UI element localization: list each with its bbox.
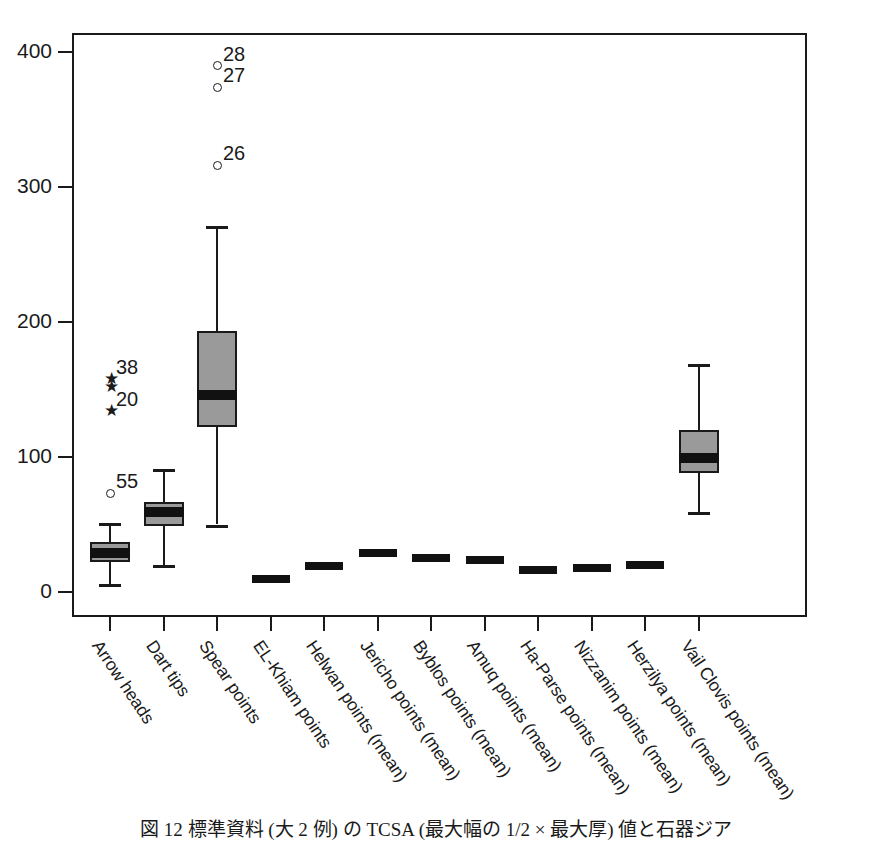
lower-whisker bbox=[163, 526, 165, 565]
outlier-circle-marker bbox=[213, 61, 222, 70]
outlier-label: 27 bbox=[223, 65, 245, 85]
mean-bar bbox=[626, 561, 664, 569]
median-line bbox=[144, 507, 184, 517]
mean-bar bbox=[519, 566, 557, 574]
median-line bbox=[679, 453, 719, 463]
outlier-circle-marker bbox=[213, 161, 222, 170]
figure-container: 0100200300400 Arrow headsDart tipsSpear … bbox=[0, 0, 873, 845]
boxplot-series: 55★20★★38262728 bbox=[0, 0, 873, 845]
mean-bar bbox=[305, 562, 343, 570]
outlier-label: 28 bbox=[223, 44, 245, 64]
lower-whisker-cap bbox=[99, 584, 121, 587]
lower-whisker-cap bbox=[206, 525, 228, 528]
mean-bar bbox=[412, 554, 450, 562]
upper-whisker-cap bbox=[99, 523, 121, 526]
box bbox=[197, 331, 237, 427]
lower-whisker bbox=[216, 427, 218, 524]
outlier-label: 38 bbox=[116, 357, 138, 377]
outlier-label: 20 bbox=[116, 389, 138, 409]
mean-bar bbox=[359, 549, 397, 557]
upper-whisker bbox=[216, 226, 218, 331]
outlier-label: 55 bbox=[116, 471, 138, 491]
median-line bbox=[90, 548, 130, 558]
outlier-circle-marker bbox=[213, 83, 222, 92]
lower-whisker bbox=[698, 473, 700, 512]
lower-whisker bbox=[109, 562, 111, 584]
lower-whisker-cap bbox=[153, 565, 175, 568]
mean-bar bbox=[466, 556, 504, 564]
upper-whisker bbox=[698, 364, 700, 430]
median-line bbox=[197, 390, 237, 400]
outlier-label: 26 bbox=[223, 143, 245, 163]
mean-bar bbox=[252, 575, 290, 583]
figure-caption: 図 12 標準資料 (大 2 例) の TCSA (最大幅の 1/2 × 最大厚… bbox=[140, 818, 840, 842]
upper-whisker-cap bbox=[206, 226, 228, 229]
upper-whisker-cap bbox=[688, 364, 710, 367]
outlier-circle-marker bbox=[106, 489, 115, 498]
box bbox=[679, 430, 719, 473]
mean-bar bbox=[573, 564, 611, 572]
upper-whisker-cap bbox=[153, 469, 175, 472]
lower-whisker-cap bbox=[688, 512, 710, 515]
upper-whisker bbox=[163, 469, 165, 501]
